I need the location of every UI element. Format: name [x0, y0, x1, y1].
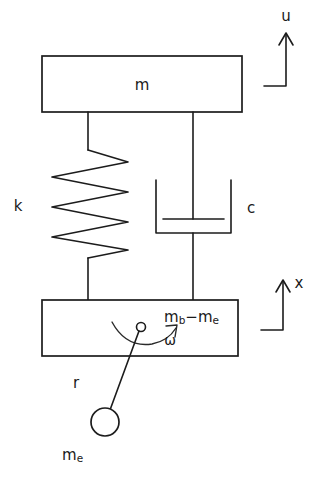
housing-mass-m2: m [198, 308, 213, 326]
angular-velocity-label: ω [164, 332, 176, 348]
housing-mass-minus: − [185, 308, 198, 326]
housing-mass-label: mb−me [164, 308, 219, 327]
spring-label: k [14, 197, 23, 215]
spring [52, 150, 128, 258]
housing-mass-m: m [164, 308, 179, 326]
diagram-canvas: m u k c mb−me ω [0, 0, 320, 484]
displacement-arrow-u [264, 33, 293, 86]
eccentric-mass-m: m [62, 446, 77, 464]
displacement-x-label: x [295, 274, 304, 292]
radius-label: r [73, 374, 80, 392]
damper-label: c [247, 199, 255, 217]
x-arrow-shaft [261, 281, 283, 330]
housing-mass-sub-e: e [213, 314, 219, 326]
eccentric-mass-label: me [62, 446, 83, 465]
upper-mass-label: m [135, 76, 150, 94]
mechanical-system-diagram: m u k c mb−me ω [0, 0, 320, 484]
displacement-arrow-x [261, 280, 290, 330]
displacement-u-label: u [281, 7, 291, 25]
eccentric-mass-sub: e [77, 452, 83, 464]
eccentric-mass [91, 408, 119, 436]
u-arrow-shaft [264, 34, 286, 86]
